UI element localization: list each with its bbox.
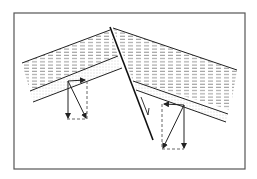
fault-diagram — [0, 0, 257, 179]
diagram-canvas — [0, 0, 257, 179]
